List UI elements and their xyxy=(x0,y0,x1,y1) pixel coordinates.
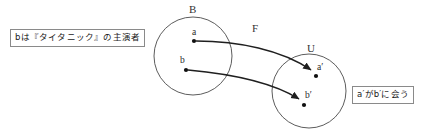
point-dot-b-prime xyxy=(302,103,306,107)
point-dot-b xyxy=(184,68,188,72)
point-label-a: a xyxy=(192,28,196,38)
set-label-u: U xyxy=(307,43,315,54)
point-label-a-prime: a′ xyxy=(317,63,323,73)
right-annotation-box: a′がb′に会う xyxy=(352,86,414,104)
diagram-canvas xyxy=(0,0,433,139)
mapping-arrow-b-to-b-prime xyxy=(188,70,299,99)
point-dot-a xyxy=(192,39,196,43)
mapping-label-f: F xyxy=(252,23,258,34)
mapping-diagram: B U F a b a′ b′ bは『タイタニック』の主演者 a′がb′に会う xyxy=(0,0,433,139)
point-dot-a-prime xyxy=(314,74,318,78)
mapping-arrow-a-to-a-prime xyxy=(196,41,311,70)
set-label-b: B xyxy=(189,4,196,15)
point-label-b-prime: b′ xyxy=(305,91,312,101)
point-label-b: b xyxy=(180,56,185,66)
left-annotation-box: bは『タイタニック』の主演者 xyxy=(10,29,145,47)
